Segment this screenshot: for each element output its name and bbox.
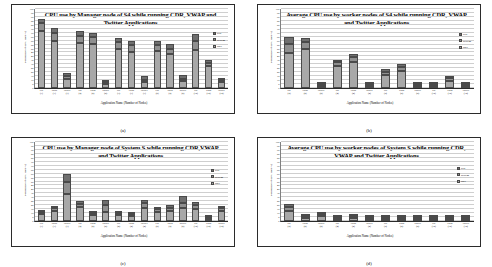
bar-column: vwap (4): [345, 142, 361, 221]
legend-swatch-icon: [213, 38, 216, 41]
y-axis-tick-label: 15: [277, 208, 280, 211]
y-axis-tick-label: 20: [31, 71, 34, 74]
bar-column: cdr (2): [281, 9, 297, 88]
chart-panel-c: CPU use by Manager node of System S whil…: [0, 133, 246, 266]
y-axis-tick-label: 30: [31, 196, 34, 199]
y-axis-tick-label: 5: [278, 216, 279, 219]
bar-segment-user: [461, 219, 470, 221]
legend-swatch-icon: [211, 175, 214, 178]
stacked-bar: [381, 217, 390, 221]
bar-group: cdr (2)vwap (2)twitter (2)cdr (4)vwap (4…: [281, 142, 474, 221]
bar-segment-user: [333, 66, 342, 88]
bar-segment-user: [102, 84, 109, 88]
y-axis-tick-label: 15: [277, 75, 280, 78]
y-axis-tick-label: 10: [277, 212, 280, 215]
y-axis-tick-label: 60: [277, 172, 280, 175]
y-axis-tick-label: 90: [277, 15, 280, 18]
stacked-bar: [128, 212, 135, 221]
y-axis-tick-label: 15: [31, 75, 34, 78]
legend-entry: system: [213, 38, 225, 42]
y-axis-tick-label: 50: [277, 47, 280, 50]
stacked-bar: [128, 41, 135, 88]
bar-group: cdr (2)vwap (2)twitter (2)cdr (4)vwap (4…: [281, 9, 474, 88]
bar-column: twitter (8): [410, 142, 426, 221]
bar-column: cdr (1): [35, 142, 48, 221]
stacked-bar: [166, 44, 173, 88]
bar-column: twitter (4): [138, 142, 151, 221]
bar-segment-user: [141, 82, 148, 88]
stacked-bar: [317, 212, 326, 221]
y-axis-tick-label: 85: [31, 152, 34, 155]
bar-column: twitter (3): [138, 9, 151, 88]
bar-segment-system: [51, 33, 58, 41]
stacked-bar: [76, 201, 83, 221]
stacked-bar: [349, 54, 358, 88]
stacked-bar: [445, 76, 454, 88]
bar-segment-user: [284, 53, 293, 88]
y-axis-tick-label: 70: [31, 31, 34, 34]
y-axis-tick-label: 25: [277, 200, 280, 203]
y-axis-tick-label: 40: [277, 55, 280, 58]
y-axis-tick-label: 40: [31, 188, 34, 191]
y-axis-tick-label: 70: [277, 31, 280, 34]
stacked-bar: [317, 86, 326, 88]
legend-label: system: [217, 38, 225, 42]
legend-label: system: [215, 175, 223, 179]
legend-swatch-icon: [457, 173, 460, 176]
stacked-bar: [115, 211, 122, 221]
bar-segment-user: [166, 54, 173, 88]
plot-area-a: 0510152025303540455055606570758085909510…: [34, 9, 228, 89]
bar-column: vwap (2): [86, 142, 99, 221]
stacked-bar: [76, 31, 83, 88]
bar-segment-user: [51, 211, 58, 221]
bar-column: cdr (8): [377, 9, 393, 88]
legend-label: real: [461, 166, 465, 170]
stacked-bar: [397, 217, 406, 221]
stacked-bar: [115, 38, 122, 88]
y-axis-tick-label: 45: [277, 51, 280, 54]
bar-segment-user: [166, 211, 173, 221]
legend-entry: real: [213, 31, 225, 35]
legend-entry: user: [211, 181, 223, 185]
bar-column: twitter (1): [61, 9, 74, 88]
plot-area-b: 0510152025303540455055606570758085909510…: [280, 9, 474, 89]
bar-segment-user: [365, 219, 374, 221]
legend-swatch-icon: [211, 182, 214, 185]
legend-swatch-icon: [213, 32, 216, 35]
y-axis-tick-label: 35: [277, 192, 280, 195]
y-axis-label-d: Percentage of CPU use (%): [269, 154, 273, 206]
y-axis-tick-label: 15: [31, 208, 34, 211]
y-axis-tick-label: 100: [276, 8, 280, 11]
bar-segment-user: [445, 81, 454, 89]
y-axis-tick-label: 100: [30, 8, 34, 11]
bar-column: vwap (2): [297, 142, 313, 221]
stacked-bar: [429, 83, 438, 88]
stacked-bar: [301, 38, 310, 88]
bar-segment-user: [381, 219, 390, 221]
bar-segment-system: [38, 23, 45, 31]
x-axis-label-c: Application Name (Number of Nodes): [12, 234, 236, 238]
panel-letter-c: (c): [0, 261, 246, 266]
y-axis-label-c: Percentage of CPU use (%): [23, 154, 27, 206]
y-axis-tick-label: 20: [277, 71, 280, 74]
stacked-bar: [461, 82, 470, 88]
bar-segment-real: [192, 34, 199, 41]
x-axis-tick-label: twitter (12): [451, 222, 481, 228]
stacked-bar: [284, 37, 293, 88]
stacked-bar: [413, 86, 422, 88]
y-axis-tick-label: 5: [32, 83, 33, 86]
stacked-bar: [154, 41, 161, 88]
legend-swatch-icon: [459, 39, 462, 42]
legend-swatch-icon: [213, 45, 216, 48]
legend-entry: system: [211, 175, 223, 179]
bar-segment-user: [205, 66, 212, 88]
bar-segment-user: [63, 194, 70, 221]
stacked-bar: [218, 78, 225, 88]
y-axis-label-a: Percentage of CPU use (%): [23, 21, 27, 73]
stacked-bar: [205, 60, 212, 88]
bar-column: vwap (12): [442, 142, 458, 221]
bar-segment-user: [76, 207, 83, 221]
y-axis-tick-label: 40: [31, 55, 34, 58]
y-axis-tick-label: 80: [277, 156, 280, 159]
y-axis-tick-label: 50: [31, 180, 34, 183]
